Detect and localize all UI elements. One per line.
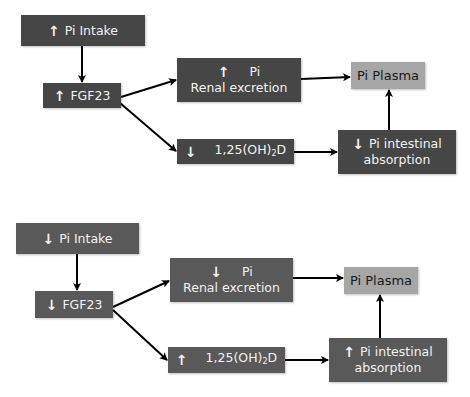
renal-excretion-label: Renal excretion [191,80,288,96]
down-arrow-icon: ↓ [42,231,54,247]
pi-intake-label: Pi Intake [59,231,112,247]
pi-intestinal-label: Pi intestinal [360,344,433,360]
renal-excretion-label: Renal excretion [183,280,280,296]
vitamin-d-label: 1,25(OH)2D [206,350,278,370]
bottom-fgf23-box: ↓ FGF23 [35,291,113,318]
pi-label: Pi [242,264,253,280]
arrow-fgf23-to-vitd [120,103,176,151]
fgf23-label: FGF23 [62,297,102,313]
bottom-renal-excretion-box: ↓ Pi Renal excretion [170,258,293,302]
absorption-label: absorption [355,360,422,376]
down-arrow-icon: ↓ [46,297,58,313]
top-renal-excretion-box: ↑ Pi Renal excretion [177,58,301,102]
up-arrow-icon: ↑ [54,88,66,104]
top-vitamin-d-box: ↓ 1,25(OH)2D [177,139,294,164]
up-arrow-icon: ↑ [343,344,355,360]
top-pi-plasma-box: Pi Plasma [351,62,425,89]
bottom-pi-intake-box: ↓ Pi Intake [16,223,139,254]
top-fgf23-box: ↑ FGF23 [43,83,121,108]
arrow-fgf23-to-vitd-bottom [113,310,167,360]
vitamin-d-label: 1,25(OH)2D [215,142,287,162]
pi-label: Pi [249,64,260,80]
down-arrow-icon: ↓ [185,144,197,160]
pi-plasma-label: Pi Plasma [350,273,412,289]
down-arrow-icon: ↓ [210,264,222,280]
fgf23-label: FGF23 [70,88,110,104]
pi-plasma-label: Pi Plasma [357,68,419,84]
pi-intestinal-label: Pi intestinal [369,136,442,152]
up-arrow-icon: ↑ [48,23,60,39]
absorption-label: absorption [364,152,431,168]
pi-intake-label: Pi Intake [65,23,118,39]
up-arrow-icon: ↑ [176,352,188,368]
arrow-fgf23-to-renal-bottom [113,281,169,307]
arrow-fgf23-to-renal [121,80,176,97]
top-intestinal-absorption-box: ↓ Pi intestinal absorption [338,130,456,174]
bottom-vitamin-d-box: ↑ 1,25(OH)2D [168,347,285,373]
bottom-pi-plasma-box: Pi Plasma [344,267,418,294]
top-pi-intake-box: ↑ Pi Intake [21,15,145,46]
down-arrow-icon: ↓ [352,136,364,152]
bottom-intestinal-absorption-box: ↑ Pi intestinal absorption [329,338,447,382]
arrow-renal-to-plasma [301,77,350,79]
up-arrow-icon: ↑ [218,64,230,80]
